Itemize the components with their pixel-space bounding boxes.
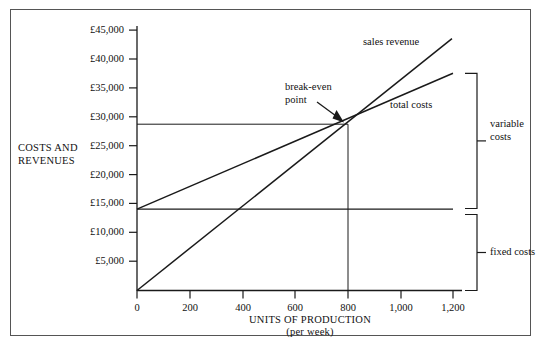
ytick-label: £15,000 <box>46 197 124 209</box>
break-even-point-label: break-even point <box>285 81 332 107</box>
bracket-label-variable-costs-line1: variable <box>490 118 524 131</box>
xtick-label: 200 <box>170 302 210 314</box>
xtick-label: 600 <box>275 302 315 314</box>
x-axis-title-line2: (per week) <box>215 326 405 338</box>
xtick-label: 1,000 <box>379 302 423 314</box>
ytick-label: £5,000 <box>46 255 124 267</box>
bracket-label-variable-costs: variable costs <box>490 118 524 144</box>
x-tick-marks <box>137 291 453 299</box>
ytick-label: £10,000 <box>46 226 124 238</box>
ytick-label: £20,000 <box>46 169 124 181</box>
series-line-sales-revenue <box>137 39 452 291</box>
bracket-variable-costs <box>465 73 486 208</box>
ytick-label: £30,000 <box>46 111 124 123</box>
xtick-label: 1,200 <box>431 302 475 314</box>
bracket-label-fixed-costs: fixed costs <box>490 246 535 259</box>
xtick-label: 400 <box>223 302 263 314</box>
break-even-point-label-line1: break-even <box>285 81 332 94</box>
series-label-sales-revenue: sales revenue <box>363 36 419 48</box>
xtick-label: 800 <box>328 302 368 314</box>
y-axis-title-line1: COSTS AND <box>18 141 78 154</box>
series-label-total-costs: total costs <box>390 99 432 111</box>
y-axis-title: COSTS AND REVENUES <box>18 141 78 168</box>
xtick-label: 0 <box>117 302 157 314</box>
ytick-label: £45,000 <box>46 24 124 36</box>
y-axis-title-line2: REVENUES <box>18 154 78 167</box>
bracket-fixed-costs <box>465 215 486 291</box>
ytick-label: £35,000 <box>46 82 124 94</box>
ytick-label: £40,000 <box>46 53 124 65</box>
y-tick-marks <box>129 30 137 261</box>
bracket-label-variable-costs-line2: costs <box>490 131 524 144</box>
break-even-point-label-line2: point <box>285 94 332 107</box>
break-even-chart-figure: £45,000 £40,000 £35,000 £30,000 £25,000 … <box>0 0 543 348</box>
x-axis-title-line1: UNITS OF PRODUCTION <box>215 314 405 326</box>
